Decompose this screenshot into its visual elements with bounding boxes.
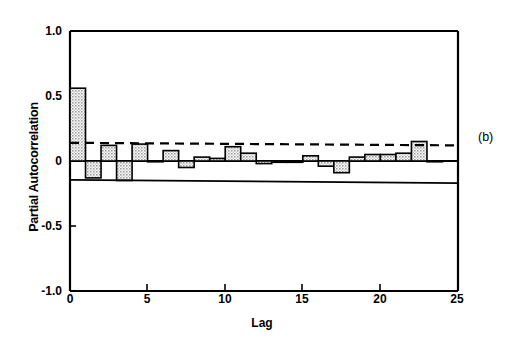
bar-lag-21: [380, 155, 396, 162]
bar-lag-1: [70, 88, 86, 161]
x-tick-label-0: 0: [50, 292, 90, 306]
x-tick-label-20: 20: [360, 292, 400, 306]
y-tick-label-0.5: 0.5: [16, 89, 62, 103]
bar-lag-3: [101, 145, 117, 161]
bar-lag-12: [241, 153, 257, 161]
bar-lag-14: [272, 161, 288, 162]
bar-lag-17: [318, 161, 334, 166]
bar-lag-11: [225, 147, 241, 161]
pacf-figure: Partial Autocorrelation Lag 1.0 0.5 0 -0…: [0, 0, 524, 346]
x-tick-label-10: 10: [205, 292, 245, 306]
x-tick-label-5: 5: [127, 292, 167, 306]
bar-lag-20: [365, 155, 381, 162]
x-axis-title: Lag: [0, 316, 524, 330]
x-tick-label-25: 25: [437, 292, 477, 306]
upper-confidence-band: [70, 143, 458, 146]
bar-lag-16: [303, 156, 319, 161]
bar-lag-22: [396, 153, 412, 161]
panel-label: (b): [478, 130, 493, 144]
y-tick-label-1.0: 1.0: [16, 24, 62, 38]
bar-lag-5: [132, 144, 148, 161]
bar-lag-13: [256, 161, 272, 164]
bar-series: [70, 88, 442, 180]
bar-lag-24: [427, 161, 443, 162]
bar-lag-4: [117, 161, 133, 181]
bar-lag-10: [210, 158, 226, 161]
bar-lag-15: [287, 161, 303, 162]
bar-lag-6: [148, 161, 164, 162]
bar-lag-9: [194, 157, 210, 161]
bar-lag-18: [334, 161, 350, 173]
x-tick-label-15: 15: [282, 292, 322, 306]
bar-lag-2: [86, 161, 102, 178]
bar-lag-8: [179, 161, 195, 168]
bar-lag-7: [163, 151, 179, 161]
bar-lag-19: [349, 157, 365, 161]
lower-confidence-band: [70, 180, 458, 183]
y-tick-label-0: 0: [16, 154, 62, 168]
y-tick-label--0.5: -0.5: [16, 219, 62, 233]
